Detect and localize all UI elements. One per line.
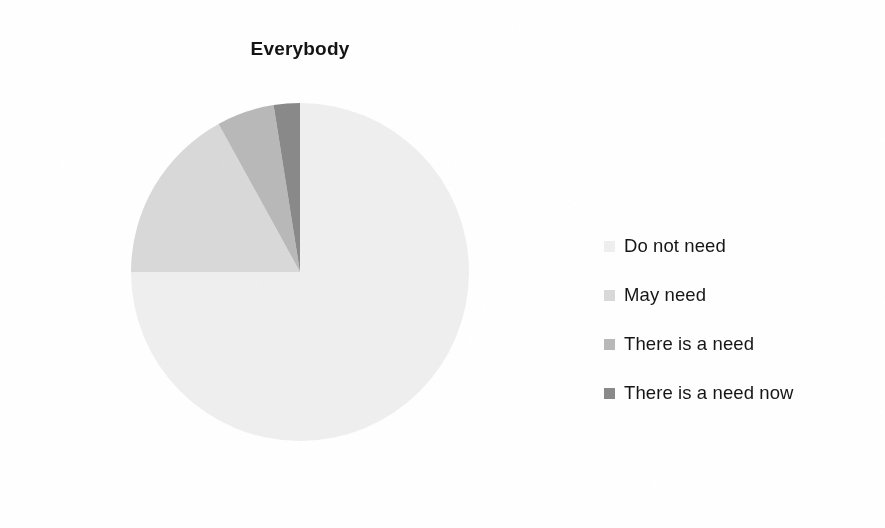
pie-chart-figure: Everybody Do not needMay needThere is a … — [0, 0, 885, 528]
legend-swatch-icon — [604, 388, 615, 399]
legend-item[interactable]: There is a need — [604, 320, 879, 369]
legend-swatch-icon — [604, 290, 615, 301]
legend-swatch-icon — [604, 241, 615, 252]
legend-item-label: There is a need — [624, 334, 754, 354]
legend-swatch-icon — [604, 339, 615, 350]
legend-item-label: Do not need — [624, 236, 726, 256]
legend-item-label: May need — [624, 285, 706, 305]
chart-title: Everybody — [0, 38, 600, 60]
legend-item-label: There is a need now — [624, 383, 794, 403]
legend-item[interactable]: Do not need — [604, 222, 879, 271]
pie-chart-plot-area — [130, 102, 470, 442]
pie-slice-group — [131, 103, 469, 441]
legend-item[interactable]: May need — [604, 271, 879, 320]
chart-legend: Do not needMay needThere is a needThere … — [604, 222, 879, 418]
legend-item[interactable]: There is a need now — [604, 369, 879, 418]
pie-chart-svg — [130, 102, 470, 442]
